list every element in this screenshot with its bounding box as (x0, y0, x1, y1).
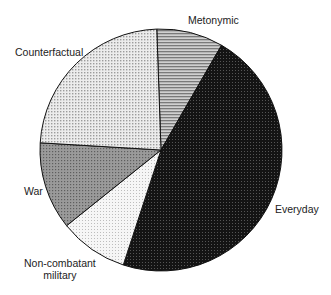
label-counterfactual: Counterfactual (15, 46, 83, 58)
pie-chart (0, 0, 331, 295)
label-noncombatant: Non-combatant military (24, 257, 96, 281)
label-noncombatant-line2: military (24, 269, 96, 281)
label-noncombatant-line1: Non-combatant (24, 257, 96, 269)
label-war: War (24, 185, 43, 197)
label-everyday: Everyday (275, 203, 319, 215)
label-metonymic: Metonymic (188, 14, 239, 26)
